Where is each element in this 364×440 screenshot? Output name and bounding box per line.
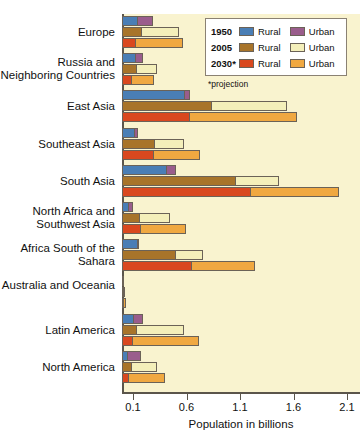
x-tick-label: 1.6 bbox=[286, 401, 301, 413]
bar-segment-rural bbox=[122, 128, 135, 138]
category-label: East Asia bbox=[0, 100, 115, 113]
legend-note: *projection bbox=[208, 79, 248, 89]
bar-segment-rural bbox=[122, 187, 251, 197]
bar-segment-rural bbox=[122, 150, 154, 160]
legend-year-label: 1950 bbox=[211, 26, 239, 37]
x-tick-label: 0.6 bbox=[179, 401, 194, 413]
bar-segment-rural bbox=[122, 314, 134, 324]
legend-label-urban: Urban bbox=[309, 42, 336, 53]
bar-segment-rural bbox=[122, 16, 138, 26]
legend-swatch-urban bbox=[290, 27, 305, 36]
x-axis-line bbox=[122, 392, 360, 394]
x-tick-mark bbox=[133, 394, 134, 400]
bar-segment-rural bbox=[122, 298, 124, 308]
bar-segment-rural bbox=[122, 373, 129, 383]
category-label: North Africa and Southwest Asia bbox=[0, 205, 115, 231]
population-bar-chart: 0.10.61.11.62.1 EuropeRussia and Neighbo… bbox=[0, 0, 364, 440]
x-tick-label: 2.1 bbox=[339, 401, 354, 413]
legend-swatch-rural bbox=[239, 27, 254, 36]
bar-segment-rural bbox=[122, 351, 128, 361]
category-label: Latin America bbox=[0, 324, 115, 337]
legend-label-rural: Rural bbox=[258, 26, 285, 37]
bar-segment-rural bbox=[122, 250, 176, 260]
category-label: Russia and Neighboring Countries bbox=[0, 56, 115, 82]
bar-segment-rural bbox=[122, 202, 129, 212]
x-axis-title: Population in billions bbox=[122, 418, 360, 430]
bar-segment-rural bbox=[122, 213, 140, 223]
legend-row: 1950RuralUrban bbox=[211, 23, 341, 39]
bar-segment-rural bbox=[122, 276, 124, 286]
legend-swatch-urban bbox=[290, 59, 305, 68]
category-label: Southeast Asia bbox=[0, 138, 115, 151]
x-tick-mark bbox=[187, 394, 188, 400]
bar-segment-rural bbox=[122, 38, 136, 48]
legend-row: 2030*RuralUrban bbox=[211, 55, 341, 71]
legend-label-urban: Urban bbox=[309, 26, 336, 37]
legend-swatch-rural bbox=[239, 43, 254, 52]
bar-segment-rural bbox=[122, 101, 212, 111]
bar-segment-rural bbox=[122, 112, 190, 122]
x-tick-label: 0.1 bbox=[125, 401, 140, 413]
bar-segment-rural bbox=[122, 261, 192, 271]
x-tick-mark bbox=[347, 394, 348, 400]
bar-segment-rural bbox=[122, 139, 155, 149]
legend-year-label: 2030* bbox=[211, 58, 239, 69]
legend-year-label: 2005 bbox=[211, 42, 239, 53]
bar-segment-rural bbox=[122, 336, 133, 346]
category-label: South Asia bbox=[0, 175, 115, 188]
bar-segment-rural bbox=[122, 27, 142, 37]
category-label: North America bbox=[0, 361, 115, 374]
category-label: Europe bbox=[0, 26, 115, 39]
x-tick-mark bbox=[294, 394, 295, 400]
bar-segment-rural bbox=[122, 362, 132, 372]
bar-segment-rural bbox=[122, 224, 141, 234]
legend-label-rural: Rural bbox=[258, 58, 285, 69]
x-tick-mark bbox=[240, 394, 241, 400]
bar-segment-rural bbox=[122, 53, 136, 63]
bar-segment-urban bbox=[122, 336, 199, 346]
x-tick-label: 1.1 bbox=[232, 401, 247, 413]
bar-segment-rural bbox=[122, 90, 185, 100]
legend-label-urban: Urban bbox=[309, 58, 336, 69]
bar-segment-rural bbox=[122, 75, 132, 85]
bar-segment-rural bbox=[122, 325, 137, 335]
bar-segment-rural bbox=[122, 287, 124, 297]
legend-swatch-rural bbox=[239, 59, 254, 68]
bar-segment-rural bbox=[122, 239, 138, 249]
bar-segment-rural bbox=[122, 165, 167, 175]
legend-label-rural: Rural bbox=[258, 42, 285, 53]
bar-segment-rural bbox=[122, 176, 236, 186]
category-label: Africa South of the Sahara bbox=[0, 242, 115, 268]
legend: 1950RuralUrban2005RuralUrban2030*RuralUr… bbox=[205, 18, 347, 76]
category-label: Australia and Oceania bbox=[0, 279, 115, 292]
legend-swatch-urban bbox=[290, 43, 305, 52]
bar-segment-rural bbox=[122, 64, 137, 74]
legend-row: 2005RuralUrban bbox=[211, 39, 341, 55]
